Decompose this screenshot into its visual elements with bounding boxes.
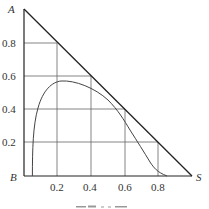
label-A: A: [7, 3, 15, 15]
label-B: B: [10, 171, 17, 183]
y-tick-0.4: 0.4: [2, 103, 16, 115]
x-tick-0.6: 0.6: [118, 181, 132, 193]
grid-lines: [24, 43, 158, 176]
label-S: S: [196, 171, 202, 183]
triangular-phase-diagram: A 0.8 0.6 0.4 0.2 B 0.2 0.4 0.6 0.8 S: [0, 0, 209, 209]
x-tick-0.4: 0.4: [83, 181, 97, 193]
x-tick-0.8: 0.8: [151, 181, 165, 193]
y-tick-0.8: 0.8: [2, 37, 16, 49]
y-tick-0.2: 0.2: [2, 136, 16, 148]
y-tick-0.6: 0.6: [2, 70, 16, 82]
caption-fragment: [76, 206, 127, 208]
hypotenuse-line: [24, 9, 192, 176]
x-tick-0.2: 0.2: [50, 181, 64, 193]
solubility-curve: [32, 81, 167, 176]
